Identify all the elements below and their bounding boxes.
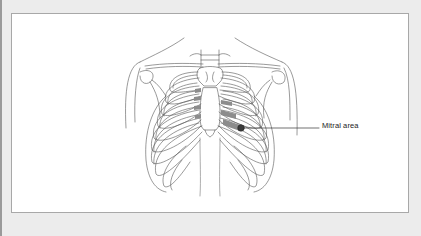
mitral-area-label: Mitral area [322,121,359,130]
neck-outline [140,38,282,62]
ribcage-diagram [0,0,421,236]
mitral-area-marker [238,125,245,132]
mitral-area-annotation [238,125,319,132]
spine [200,138,220,196]
xiphoid [205,130,215,137]
manubrium [197,67,223,87]
shoulder-outline [126,62,298,135]
ribs-right [218,72,274,192]
manubrium-detail [213,72,215,82]
sternum [200,88,220,130]
shoulder-joints [140,70,285,96]
manubrium-detail [206,72,208,82]
